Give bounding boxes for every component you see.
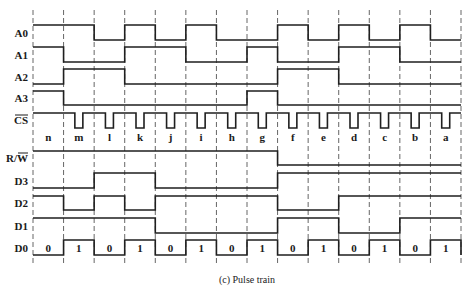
segment-label: c	[382, 131, 387, 143]
segment-label: a	[443, 131, 449, 143]
segment-label: f	[291, 131, 295, 143]
waveform-a3	[33, 91, 461, 105]
d0-bit-label: 1	[137, 242, 143, 254]
signal-label-cs: CS	[14, 114, 28, 126]
segment-label: e	[321, 131, 326, 143]
segment-label: n	[45, 131, 51, 143]
d0-bit-label: 1	[443, 242, 449, 254]
signal-label-a3: A3	[15, 92, 29, 104]
d0-bit-label: 1	[76, 242, 82, 254]
signal-label-d2: D2	[15, 197, 29, 209]
signal-label-d0: D0	[15, 242, 29, 254]
segment-label: j	[168, 131, 173, 143]
signal-label-a2: A2	[15, 71, 29, 83]
d0-bit-label: 0	[229, 242, 235, 254]
segment-label: g	[260, 131, 266, 143]
segment-label: m	[74, 131, 83, 143]
signal-label-d1: D1	[15, 220, 28, 232]
timing-diagram: A0A1A2A3CSR/WD3D2D1D0 nmlkjihgfedcba 010…	[0, 0, 471, 288]
waveform-a1	[33, 47, 461, 62]
d0-bit-label: 0	[412, 242, 418, 254]
signal-label-a1: A1	[15, 49, 28, 61]
segment-label: i	[200, 131, 203, 143]
d0-bit-label: 0	[107, 242, 113, 254]
segment-label: k	[137, 131, 144, 143]
segment-label: l	[108, 131, 111, 143]
signal-label-a0: A0	[15, 27, 29, 39]
segment-label: b	[412, 131, 418, 143]
signal-label-rw: R/W	[6, 152, 28, 164]
d0-bit-label: 1	[260, 242, 266, 254]
d0-bit-label: 1	[382, 242, 388, 254]
segment-label: h	[229, 131, 235, 143]
signal-label-d3: D3	[15, 175, 29, 187]
d0-bit-label: 0	[46, 242, 52, 254]
d0-bit-label: 0	[290, 242, 296, 254]
d0-bit-label: 0	[168, 242, 174, 254]
segment-label: d	[351, 131, 357, 143]
signal-labels: A0A1A2A3CSR/WD3D2D1D0	[6, 27, 28, 254]
figure-caption: (c) Pulse train	[219, 274, 275, 286]
d0-bit-label: 1	[321, 242, 327, 254]
d0-bit-label: 1	[198, 242, 204, 254]
d0-bit-label: 0	[351, 242, 357, 254]
waveform-d0	[33, 240, 461, 255]
